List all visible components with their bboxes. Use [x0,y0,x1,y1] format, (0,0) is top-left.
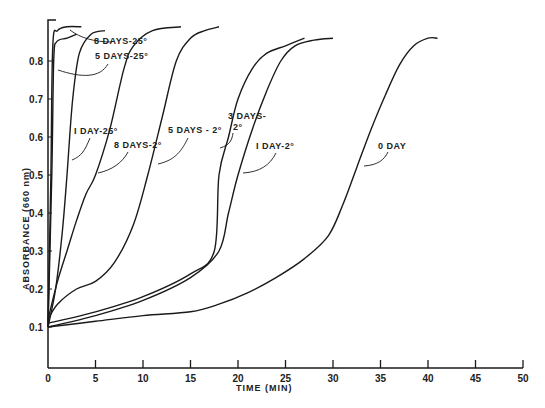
y-tick-label: 0.5 [29,170,43,181]
x-ticks: 05101520253035404550 [45,360,529,384]
x-tick-label: 0 [45,373,51,384]
x-tick-label: 40 [422,373,434,384]
y-tick-label: 0.7 [29,94,43,105]
y-tick-label: 0.4 [29,208,43,219]
y-tick-label: 0.6 [29,132,43,143]
leader-5-days-25 [58,64,108,75]
x-tick-label: 5 [93,373,99,384]
label-3-days-2-line1: 3 DAYS- [228,111,266,121]
leader-1-day-2 [243,153,276,173]
x-tick-label: 45 [470,373,482,384]
curve-3-days-2 [48,38,305,323]
x-tick-label: 10 [137,373,149,384]
x-tick-label: 50 [517,373,529,384]
leader-0-day [364,152,388,166]
y-tick-label: 0.8 [29,56,43,67]
x-tick-label: 30 [327,373,339,384]
x-tick-label: 15 [185,373,197,384]
label-8-days-25: 8 DAYS-25° [94,36,147,46]
label-8-days-2: 8 DAYS-2° [114,140,162,150]
curves [48,27,438,327]
y-tick-label: 0.2 [29,284,43,295]
curve-0-day [48,38,438,327]
label-5-days-2: 5 DAYS - 2° [168,125,222,135]
x-tick-label: 35 [375,373,387,384]
curve-8-days-2 [48,27,181,320]
leader-5-days-2 [158,138,188,164]
leader-1-day-25 [72,138,90,160]
y-tick-label: 0.3 [29,246,43,257]
x-axis-title: TIME (MIN) [236,383,293,393]
label-1-day-2: I DAY-2° [256,141,294,151]
label-0-day: 0 DAY [378,141,406,151]
y-axis-title: ABSORBANCE (660 nm) [21,167,31,290]
label-5-days-25: 5 DAYS-25° [95,51,148,61]
y-tick-label: 0.1 [29,322,43,333]
absorbance-time-chart: 05101520253035404550 0.10.20.30.40.50.60… [0,0,545,408]
label-3-days-2-line2: 2° [233,122,243,132]
axes [48,20,523,368]
label-1-day-25: I DAY-25° [74,126,118,136]
